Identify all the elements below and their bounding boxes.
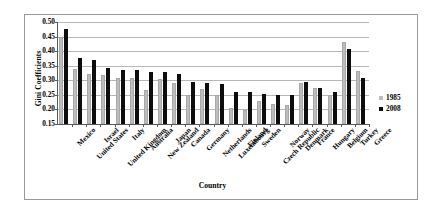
y-axis-tick-label: 0.30 [42, 77, 55, 84]
bar-1985 [73, 69, 77, 124]
bar-1985 [186, 95, 190, 124]
bar-group [143, 22, 157, 124]
bar-group [100, 22, 114, 124]
bar-group [256, 22, 270, 124]
legend-entry: 2008 [379, 103, 431, 114]
bar-1985 [130, 78, 134, 124]
legend-swatch-icon [379, 107, 383, 111]
bar-group [214, 22, 228, 124]
bar-1985 [116, 78, 120, 124]
bar-1985 [172, 83, 176, 124]
legend-label: 2008 [386, 105, 401, 112]
bar-group [171, 22, 185, 124]
bar-2008 [191, 82, 195, 124]
bar-1985 [144, 90, 148, 124]
x-axis-label-mexico: Mexico [77, 127, 98, 148]
bar-2008 [304, 82, 308, 124]
bar-2008 [234, 92, 238, 124]
legend-label: 1985 [386, 94, 401, 101]
bar-2008 [220, 84, 224, 124]
gini-coefficients-bar-chart: Gini Coefficients 0.500.450.400.350.300.… [0, 0, 441, 213]
bar-group [115, 22, 129, 124]
y-axis-tick-label: 0.35 [42, 62, 55, 69]
bar-2008 [149, 72, 153, 124]
bar-group [341, 22, 355, 124]
bar-group [157, 22, 171, 124]
bar-2008 [106, 68, 110, 124]
bar-group [185, 22, 199, 124]
bar-2008 [205, 83, 209, 124]
bar-2008 [318, 88, 322, 124]
bar-1985 [299, 83, 303, 124]
y-axis-tick-label: 0.25 [42, 91, 55, 98]
bar-2008 [333, 92, 337, 124]
x-axis-category-labels: MexicoUnited StatesIsraelUnited KingdomI… [57, 127, 368, 177]
bar-group [129, 22, 143, 124]
bar-group [72, 22, 86, 124]
x-axis-title: Country [57, 181, 368, 190]
bar-1985 [200, 89, 204, 124]
bar-2008 [248, 92, 252, 124]
bar-2008 [78, 58, 82, 124]
bar-2008 [262, 94, 266, 124]
bar-2008 [347, 49, 351, 124]
bar-group [270, 22, 284, 124]
bar-2008 [290, 95, 294, 124]
bar-group [86, 22, 100, 124]
bar-1985 [215, 95, 219, 124]
bar-1985 [342, 42, 346, 124]
y-axis-tick-label: 0.45 [42, 33, 55, 40]
bar-2008 [276, 95, 280, 124]
bar-1985 [271, 104, 275, 124]
bar-group [228, 22, 242, 124]
bars-layer [58, 22, 369, 124]
bar-group [298, 22, 312, 124]
bar-2008 [135, 70, 139, 124]
y-axis-tick-label: 0.20 [42, 106, 55, 113]
bar-1985 [328, 95, 332, 124]
y-axis-tick-mark [55, 124, 58, 125]
bar-group [199, 22, 213, 124]
x-axis-label-italy: Italy [131, 127, 146, 142]
y-axis-tick-label: 0.15 [42, 120, 55, 127]
bar-1985 [101, 75, 105, 124]
bar-1985 [257, 101, 261, 124]
bar-group [58, 22, 72, 124]
bar-2008 [121, 70, 125, 124]
y-axis-tick-label: 0.40 [42, 47, 55, 54]
y-axis-title: Gini Coefficients [34, 34, 43, 124]
legend-swatch-icon [379, 96, 383, 100]
bar-1985 [229, 108, 233, 124]
y-axis-tick-label: 0.50 [42, 18, 55, 25]
bar-group [284, 22, 298, 124]
bar-group [312, 22, 326, 124]
bar-1985 [158, 79, 162, 124]
bar-1985 [243, 110, 247, 124]
bar-2008 [64, 29, 68, 124]
bar-1985 [356, 71, 360, 124]
bar-1985 [285, 105, 289, 124]
plot-area: 0.500.450.400.350.300.250.200.15 [57, 22, 369, 125]
bar-2008 [361, 78, 365, 124]
bar-2008 [177, 74, 181, 124]
bar-1985 [87, 74, 91, 124]
bar-2008 [92, 60, 96, 124]
legend-entry: 1985 [379, 92, 431, 103]
bar-group [327, 22, 341, 124]
bar-group [355, 22, 369, 124]
chart-legend: 19852008 [379, 92, 431, 114]
bar-2008 [163, 72, 167, 124]
bar-group [242, 22, 256, 124]
x-axis-tick-mark [369, 124, 370, 127]
bar-1985 [59, 37, 63, 124]
bar-1985 [313, 88, 317, 124]
